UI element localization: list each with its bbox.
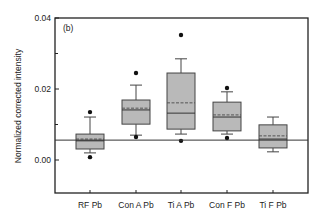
x-category-label: RF Pb <box>78 200 102 210</box>
outlier-point <box>134 135 138 139</box>
iqr-box <box>76 134 104 149</box>
box-ti-f-pb <box>259 117 287 193</box>
x-category-label: Ti F Pb <box>259 200 286 210</box>
box-ti-a-pb <box>167 33 195 193</box>
box-con-f-pb <box>213 86 241 193</box>
x-category-label: Ti A Pb <box>168 200 195 210</box>
outlier-point <box>88 155 92 159</box>
iqr-box <box>213 102 241 131</box>
box-rf-pb <box>76 110 104 193</box>
outlier-point <box>179 33 183 37</box>
y-tick-label: 0.04 <box>34 13 51 23</box>
box-plot-chart: (b) Normalized corrected intensity 0.000… <box>0 0 320 223</box>
y-axis-title: Normalized corrected intensity <box>13 48 23 163</box>
outlier-point <box>88 110 92 114</box>
outlier-point <box>134 71 138 75</box>
y-tick-label: 0.02 <box>34 84 51 94</box>
iqr-box <box>259 125 287 148</box>
iqr-box <box>122 100 150 124</box>
x-category-label: Con F Pb <box>209 200 245 210</box>
iqr-box <box>167 73 195 129</box>
box-series <box>76 33 287 193</box>
y-tick-label: 0.00 <box>34 155 51 165</box>
outlier-point <box>179 139 183 143</box>
outlier-point <box>225 136 229 140</box>
x-axis-labels: RF PbCon A PbTi A PbCon F PbTi F Pb <box>78 200 287 210</box>
panel-label: (b) <box>63 23 74 33</box>
x-category-label: Con A Pb <box>118 200 154 210</box>
box-con-a-pb <box>122 71 150 193</box>
outlier-point <box>225 86 229 90</box>
